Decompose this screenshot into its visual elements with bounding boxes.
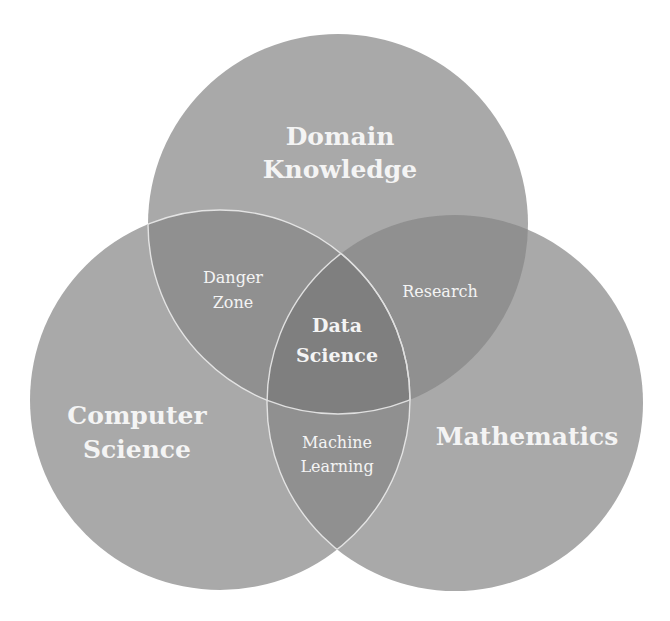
- label-domain: Domain: [286, 122, 395, 151]
- label-data-science: Science: [296, 344, 378, 366]
- label-data: Data: [312, 314, 362, 336]
- label-mathematics: Mathematics: [436, 422, 619, 451]
- label-learning: Learning: [300, 457, 373, 476]
- label-science: Science: [83, 435, 191, 464]
- label-research: Research: [402, 282, 478, 301]
- label-danger: Danger: [203, 268, 263, 287]
- label-machine: Machine: [302, 433, 372, 452]
- venn-diagram: Domain Knowledge Computer Science Mathem…: [0, 0, 670, 621]
- label-zone: Zone: [213, 293, 254, 312]
- label-computer: Computer: [67, 401, 207, 430]
- label-knowledge: Knowledge: [263, 155, 417, 184]
